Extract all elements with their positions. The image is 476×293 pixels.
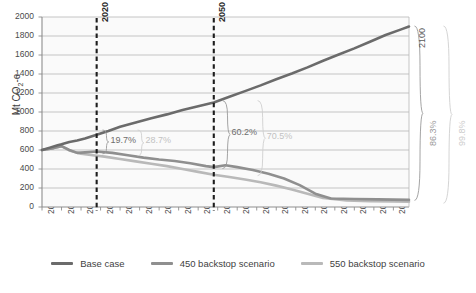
bracket-2100-550 (444, 26, 453, 203)
legend-swatch-icon (151, 262, 173, 265)
chart-legend: Base case 450 backstop scenario 550 back… (0, 258, 476, 269)
annotation-percent-2100-550: 99.8% (457, 120, 467, 146)
legend-swatch-icon (51, 262, 73, 265)
plot-area (0, 0, 476, 293)
legend-item: 550 backstop scenario (301, 258, 425, 269)
annotation-percent: 70.5% (267, 131, 293, 141)
legend-item: Base case (51, 258, 124, 269)
chart-figure: Mt CO2-e 0200400600800100012001400160018… (0, 0, 476, 293)
bracket-2100-450 (415, 26, 424, 200)
legend-label: 550 backstop scenario (330, 258, 425, 269)
legend-swatch-icon (301, 262, 323, 265)
annotation-percent: 19.7% (110, 135, 136, 145)
legend-label: Base case (80, 258, 124, 269)
legend-label: 450 backstop scenario (180, 258, 275, 269)
annotation-percent-2100-450: 86.3% (428, 120, 438, 146)
legend-item: 450 backstop scenario (151, 258, 275, 269)
annotation-percent: 60.2% (232, 127, 258, 137)
annotation-year-2100: 2100 (417, 28, 427, 48)
annotation-percent: 28.7% (146, 135, 172, 145)
vline-label-2050: 2050 (217, 2, 227, 22)
vline-label-2020: 2020 (100, 2, 110, 22)
